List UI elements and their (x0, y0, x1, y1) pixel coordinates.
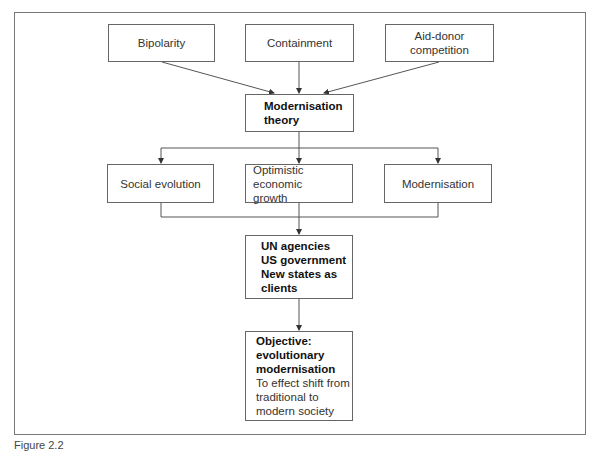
node-label-line: Aid-donor (410, 29, 469, 43)
node-label-line: US government (261, 253, 346, 267)
node-label-line: UN agencies (261, 239, 346, 253)
node-optimistic-economic-growth: Optimistic economic growth (245, 164, 353, 203)
node-label: Containment (267, 36, 332, 50)
arrow-bipolarity (162, 62, 274, 93)
figure-caption: Figure 2.2 (14, 439, 64, 451)
node-label-line: clients (261, 281, 346, 295)
node-label-line: New states as (261, 267, 346, 281)
arrow-aid-donor (324, 62, 439, 93)
node-containment: Containment (245, 24, 354, 62)
node-objective: Objective: evolutionary modernisation To… (245, 331, 353, 421)
node-label-line: traditional to (256, 390, 350, 404)
node-label-line: Optimistic economic (253, 163, 352, 191)
node-label-line: theory (264, 113, 343, 127)
node-aid-donor-competition: Aid-donor competition (385, 24, 494, 62)
node-label-line: modern society (256, 404, 350, 418)
node-modernisation: Modernisation (384, 164, 492, 203)
node-label: Bipolarity (138, 36, 185, 50)
node-label-line: Objective: (256, 334, 350, 348)
node-label-line: Modernisation (264, 99, 343, 113)
node-label-line: competition (410, 43, 469, 57)
node-label-line: growth (253, 191, 352, 205)
node-label: Social evolution (120, 177, 201, 191)
node-actors: UN agencies US government New states as … (245, 235, 353, 299)
node-bipolarity: Bipolarity (108, 24, 215, 62)
node-label-line: modernisation (256, 362, 350, 376)
node-modernisation-theory: Modernisation theory (245, 94, 354, 132)
node-label: Modernisation (402, 177, 474, 191)
node-label-line: evolutionary (256, 348, 350, 362)
node-social-evolution: Social evolution (107, 164, 214, 203)
node-label-line: To effect shift from (256, 376, 350, 390)
